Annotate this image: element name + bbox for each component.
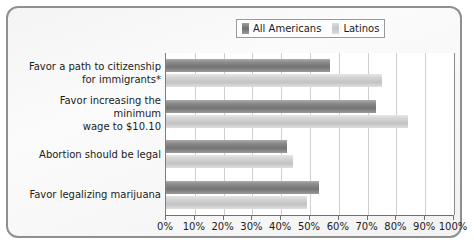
bar-all-americans bbox=[166, 59, 330, 72]
x-axis-tick-label: 60% bbox=[327, 221, 349, 233]
x-axis-tick-label: 40% bbox=[269, 221, 291, 233]
x-axis-tick-label: 70% bbox=[355, 221, 377, 233]
bar-all-americans bbox=[166, 181, 319, 194]
x-axis-tick bbox=[309, 215, 310, 220]
x-axis-ticks bbox=[165, 215, 453, 220]
category-label: Favor legalizing marijuana bbox=[20, 175, 163, 216]
gridline bbox=[454, 53, 455, 215]
x-axis-tick bbox=[251, 215, 252, 220]
x-axis-tick-label: 50% bbox=[298, 221, 320, 233]
legend-entry-latinos: Latinos bbox=[332, 23, 379, 34]
x-axis-tick-label: 20% bbox=[211, 221, 233, 233]
category-label: Favor a path to citizenship for immigran… bbox=[20, 53, 163, 94]
legend-label-latinos: Latinos bbox=[343, 24, 379, 34]
x-axis-tick-label: 100% bbox=[439, 221, 468, 233]
x-axis-tick bbox=[165, 215, 166, 220]
legend-label-all-americans: All Americans bbox=[253, 24, 321, 34]
category-label: Abortion should be legal bbox=[20, 134, 163, 175]
x-axis-tick bbox=[453, 215, 454, 220]
x-axis-tick bbox=[194, 215, 195, 220]
legend-entry-all-americans: All Americans bbox=[242, 23, 321, 34]
x-axis-tick-label: 30% bbox=[240, 221, 262, 233]
chart-card: All Americans Latinos Favor a path to ci… bbox=[6, 6, 462, 238]
x-axis-tick bbox=[395, 215, 396, 220]
bar-latinos bbox=[166, 196, 307, 209]
x-axis-tick-labels: 0%10%20%30%40%50%60%70%80%90%100% bbox=[165, 221, 453, 235]
x-axis-tick-label: 10% bbox=[183, 221, 205, 233]
bar-all-americans bbox=[166, 140, 287, 153]
bar-group bbox=[166, 53, 454, 94]
bar-latinos bbox=[166, 155, 293, 168]
x-axis-tick bbox=[338, 215, 339, 220]
bar-latinos bbox=[166, 74, 382, 87]
category-label: Favor increasing the minimum wage to $10… bbox=[20, 94, 163, 135]
bar-group bbox=[166, 175, 454, 216]
x-axis-tick bbox=[367, 215, 368, 220]
bar-group bbox=[166, 134, 454, 175]
legend-swatch-icon-latinos bbox=[332, 23, 339, 34]
category-axis-labels: Favor a path to citizenship for immigran… bbox=[20, 53, 163, 215]
chart-legend: All Americans Latinos bbox=[236, 19, 385, 38]
bar-groups bbox=[166, 53, 454, 215]
bar-group bbox=[166, 94, 454, 135]
plot-area bbox=[165, 53, 454, 215]
x-axis-tick bbox=[280, 215, 281, 220]
x-axis-tick-label: 0% bbox=[157, 221, 173, 233]
bar-latinos bbox=[166, 115, 408, 128]
x-axis-tick-label: 90% bbox=[413, 221, 435, 233]
x-axis-tick bbox=[424, 215, 425, 220]
x-axis-tick bbox=[223, 215, 224, 220]
legend-swatch-icon-all-americans bbox=[242, 23, 249, 34]
bar-all-americans bbox=[166, 100, 376, 113]
x-axis-tick-label: 80% bbox=[384, 221, 406, 233]
